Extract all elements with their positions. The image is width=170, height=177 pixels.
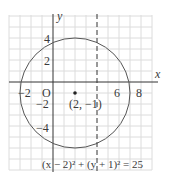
center-label: (2, −1) — [69, 97, 102, 111]
y-tick-2: 2 — [44, 54, 50, 68]
x-tick-6: 6 — [114, 86, 120, 100]
y-tick-neg4: −4 — [36, 121, 49, 135]
y-axis-label: y — [56, 9, 63, 23]
y-tick-4: 4 — [44, 32, 50, 46]
y-tick-neg2: −2 — [36, 97, 49, 111]
circle-diagram: x y O −2 6 8 4 2 −2 −4 (2, −1) (x − 2)² … — [0, 0, 170, 177]
equation-label: (x − 2)² + (y + 1)² = 25 — [42, 158, 144, 171]
x-axis-label: x — [154, 67, 161, 81]
x-tick-neg2: −2 — [18, 86, 31, 100]
x-tick-8: 8 — [136, 86, 142, 100]
center-point — [73, 91, 77, 95]
